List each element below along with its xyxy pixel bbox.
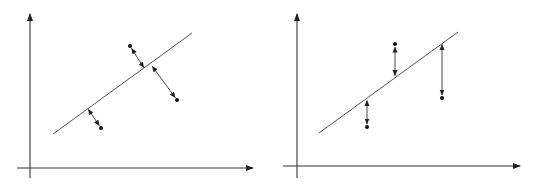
panel-vertical-residuals [283, 14, 520, 178]
regression-residuals-diagram [0, 0, 537, 187]
data-point [128, 44, 132, 48]
diagram-svg [0, 0, 537, 187]
residual-arrow [132, 49, 144, 68]
panel-perpendicular-residuals [17, 14, 253, 178]
residual-arrow [152, 66, 175, 97]
data-point [393, 42, 397, 46]
fitted-line [319, 32, 458, 133]
data-point [175, 98, 179, 102]
residual-arrow [88, 109, 99, 125]
data-point [99, 126, 103, 130]
fitted-line [53, 33, 192, 134]
data-point [440, 96, 444, 100]
data-point [365, 125, 369, 129]
